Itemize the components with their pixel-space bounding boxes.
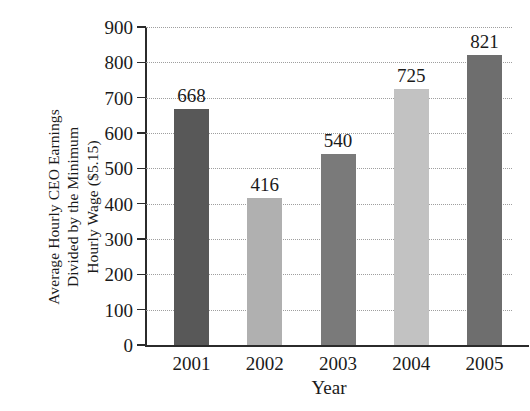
- y-axis-tick-label: 100: [105, 300, 134, 319]
- bar-value-label: 416: [251, 175, 280, 194]
- y-axis-tick: [137, 344, 146, 346]
- y-axis-title-line-2: Divided by the Minimum: [63, 109, 83, 305]
- x-axis-tick-label: 2001: [173, 354, 211, 373]
- y-axis-tick-label: 200: [105, 265, 134, 284]
- x-axis-tick-label: 2003: [319, 354, 357, 373]
- bar: 7252004: [394, 89, 429, 345]
- y-axis-tick: [137, 203, 146, 205]
- bar-value-label: 821: [470, 32, 499, 51]
- y-axis-line: [145, 27, 147, 345]
- bar-value-label: 725: [397, 66, 426, 85]
- y-axis-tick: [137, 97, 146, 99]
- y-axis-tick-label: 300: [105, 230, 134, 249]
- plot-area: 0100200300400500600700800900 66820014162…: [146, 27, 512, 345]
- y-axis-tick-label: 400: [105, 194, 134, 213]
- y-axis-tick: [137, 309, 146, 311]
- bar: 4162002: [247, 198, 282, 345]
- y-axis-tick: [137, 274, 146, 276]
- y-axis-tick: [137, 238, 146, 240]
- bar-chart: Average Hourly CEO Earnings Divided by t…: [0, 0, 530, 411]
- y-axis-tick: [137, 132, 146, 134]
- bar-value-label: 540: [324, 131, 353, 150]
- y-axis-tick-label: 900: [105, 18, 134, 37]
- gridline: [146, 27, 512, 29]
- gridline: [146, 62, 512, 64]
- y-axis-tick: [137, 168, 146, 170]
- bar: 6682001: [174, 109, 209, 345]
- y-axis-tick-label: 600: [105, 124, 134, 143]
- bar-value-label: 668: [177, 86, 206, 105]
- y-axis-title: Average Hourly CEO Earnings Divided by t…: [42, 42, 104, 372]
- x-axis-title: Year: [146, 378, 512, 398]
- x-axis-tick-label: 2004: [392, 354, 430, 373]
- x-axis-line: [145, 345, 529, 347]
- y-axis-title-line-1: Average Hourly CEO Earnings: [44, 109, 64, 305]
- bar: 8212005: [467, 55, 502, 345]
- y-axis-tick: [137, 62, 146, 64]
- y-axis-tick: [137, 26, 146, 28]
- y-axis-tick-label: 700: [105, 88, 134, 107]
- y-axis-tick-label: 0: [124, 336, 134, 355]
- x-axis-tick-label: 2005: [465, 354, 503, 373]
- bar: 5402003: [321, 154, 356, 345]
- y-axis-title-line-3: Hourly Wage ($5.15): [83, 109, 103, 305]
- x-axis-tick-label: 2002: [246, 354, 284, 373]
- y-axis-tick-label: 500: [105, 159, 134, 178]
- y-axis-tick-label: 800: [105, 53, 134, 72]
